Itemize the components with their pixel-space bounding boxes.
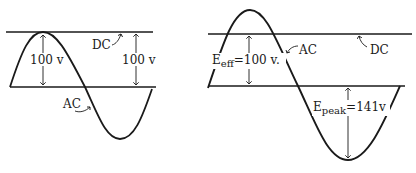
e-eff-subscript: eff xyxy=(221,58,235,69)
right-ac-sine-wave xyxy=(208,10,400,160)
left-dc-level-label: 100 v xyxy=(122,53,156,67)
ac-dc-comparison-diagram: 100 v 100 v DC AC Eeff=100 v. Epeak=141v… xyxy=(0,0,416,173)
right-dc-pointer-icon xyxy=(359,36,367,47)
right-ac-label: AC xyxy=(298,43,317,57)
e-eff-value: =100 v. xyxy=(234,53,280,67)
e-peak-subscript: peak xyxy=(322,105,347,116)
e-peak-value: =141v xyxy=(346,100,386,114)
left-ac-label: AC xyxy=(62,97,81,111)
right-panel: Eeff=100 v. Epeak=141v AC DC xyxy=(208,10,412,160)
right-dc-label: DC xyxy=(370,43,389,57)
left-ac-sine-wave xyxy=(10,32,152,139)
right-ac-pointer-icon xyxy=(287,46,298,53)
left-dc-pointer-icon xyxy=(112,34,121,45)
e-eff-prefix: E xyxy=(212,53,221,67)
left-ac-peak-label: 100 v xyxy=(30,53,64,67)
e-peak-prefix: E xyxy=(313,100,322,114)
left-dc-label: DC xyxy=(92,38,111,52)
left-panel: 100 v 100 v DC AC xyxy=(6,32,156,139)
